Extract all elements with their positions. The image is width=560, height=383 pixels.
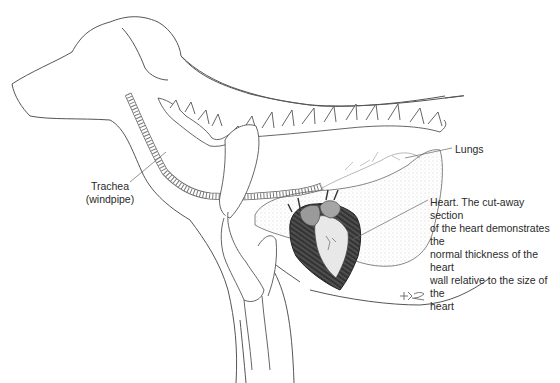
heart-label-line: Heart. The cut-away section <box>430 196 560 222</box>
heart-label: Heart. The cut-away section of the heart… <box>430 196 560 313</box>
artist-signature <box>400 292 424 300</box>
heart-label-line: wall relative to the size of the <box>430 274 560 300</box>
trachea-label-line1: Trachea <box>82 180 138 193</box>
spine <box>158 98 446 146</box>
lungs-label: Lungs <box>455 143 484 156</box>
heart-label-line: normal thickness of the heart <box>430 248 560 274</box>
anatomy-diagram: Trachea (windpipe) Lungs Heart. The cut-… <box>0 0 560 383</box>
heart-label-line: heart <box>430 300 560 313</box>
trachea-label-line2: (windpipe) <box>82 193 138 206</box>
shoulder-bones <box>219 125 276 370</box>
trachea-label: Trachea (windpipe) <box>82 180 138 206</box>
lungs-label-text: Lungs <box>455 143 484 156</box>
heart-label-line: of the heart demonstrates the <box>430 222 560 248</box>
